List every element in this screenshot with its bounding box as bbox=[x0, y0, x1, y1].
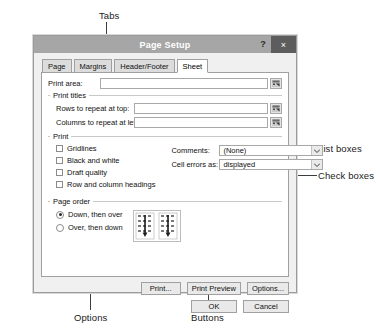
tab-page[interactable]: Page bbox=[42, 59, 72, 73]
print-checkbox-list: Gridlines Black and white Draft quality bbox=[48, 144, 155, 192]
checkbox-box[interactable] bbox=[56, 157, 63, 164]
action-button-row-upper: Print... Print Preview Options... bbox=[41, 282, 289, 295]
tab-sheet[interactable]: Sheet bbox=[177, 59, 209, 73]
cell-errors-row: Cell errors as: displayed bbox=[171, 159, 323, 170]
tab-header-footer[interactable]: Header/Footer bbox=[114, 59, 174, 73]
checkbox-box[interactable] bbox=[56, 145, 63, 152]
checkbox-gridlines[interactable]: Gridlines bbox=[56, 144, 155, 153]
range-select-icon[interactable] bbox=[270, 117, 282, 128]
radio-button[interactable] bbox=[56, 211, 64, 219]
page-setup-dialog: Page Setup ? × Page Margins Header/Foote… bbox=[33, 35, 297, 293]
checkbox-row-and-column-headings[interactable]: Row and column headings bbox=[56, 180, 155, 189]
page-order-radio-list: Down, then over Over, then down bbox=[48, 210, 123, 236]
tab-margins[interactable]: Margins bbox=[74, 59, 113, 73]
columns-repeat-label: Columns to repeat at left: bbox=[48, 118, 134, 127]
checkbox-box[interactable] bbox=[56, 181, 63, 188]
rows-repeat-row: Rows to repeat at top: bbox=[48, 103, 282, 114]
dialog-titlebar[interactable]: Page Setup ? × bbox=[34, 36, 296, 53]
range-select-icon[interactable] bbox=[270, 103, 282, 114]
print-titles-group-label: Print titles bbox=[50, 91, 89, 100]
print-button[interactable]: Print... bbox=[141, 282, 181, 295]
annotation-list-boxes-label: List boxes bbox=[318, 143, 362, 154]
annotation-options-label: Options bbox=[74, 312, 107, 323]
page-order-group: Page order Down, then over Over, then do… bbox=[48, 201, 282, 242]
columns-repeat-input[interactable] bbox=[134, 117, 268, 128]
print-combo-list: Comments: (None) Cell errors as: bbox=[171, 144, 323, 192]
radio-over-then-down[interactable]: Over, then down bbox=[56, 223, 123, 232]
dialog-title: Page Setup bbox=[139, 40, 190, 50]
page-order-group-label: Page order bbox=[50, 197, 93, 206]
cancel-button[interactable]: Cancel bbox=[243, 300, 289, 313]
print-area-label: Print area: bbox=[48, 79, 100, 88]
comments-select[interactable]: (None) bbox=[219, 145, 323, 156]
annotation-tabs-label: Tabs bbox=[99, 10, 119, 21]
columns-repeat-row: Columns to repeat at left: bbox=[48, 117, 282, 128]
annotation-buttons-label: Buttons bbox=[191, 312, 224, 323]
checkbox-black-and-white[interactable]: Black and white bbox=[56, 156, 155, 165]
print-preview-button[interactable]: Print Preview bbox=[187, 282, 241, 295]
radio-down-then-over[interactable]: Down, then over bbox=[56, 210, 123, 219]
checkbox-label: Draft quality bbox=[67, 168, 107, 177]
print-area-row: Print area: bbox=[48, 78, 282, 89]
rows-repeat-label: Rows to repeat at top: bbox=[48, 104, 134, 113]
comments-label: Comments: bbox=[171, 146, 219, 155]
chevron-down-icon[interactable] bbox=[311, 146, 322, 155]
cell-errors-value: displayed bbox=[220, 160, 311, 169]
ok-button[interactable]: OK bbox=[191, 300, 237, 313]
page-order-preview-image bbox=[133, 210, 181, 242]
cell-errors-select[interactable]: displayed bbox=[219, 159, 323, 170]
radio-label: Down, then over bbox=[68, 210, 123, 219]
cell-errors-label: Cell errors as: bbox=[171, 160, 219, 169]
print-group: Print Gridlines Black and white bbox=[48, 136, 282, 192]
help-icon[interactable]: ? bbox=[256, 37, 270, 51]
sheet-tab-panel: Print area: Print titles Rows to repeat … bbox=[41, 72, 289, 277]
comments-row: Comments: (None) bbox=[171, 145, 323, 156]
print-group-label: Print bbox=[50, 132, 71, 141]
checkbox-label: Row and column headings bbox=[67, 180, 155, 189]
radio-label: Over, then down bbox=[68, 223, 123, 232]
dialog-body: Page Margins Header/Footer Sheet Print a… bbox=[34, 53, 296, 292]
checkbox-box[interactable] bbox=[56, 169, 63, 176]
options-button[interactable]: Options... bbox=[247, 282, 289, 295]
checkbox-label: Gridlines bbox=[67, 144, 97, 153]
annotation-check-boxes-label: Check boxes bbox=[318, 170, 374, 181]
action-button-row-lower: OK Cancel bbox=[41, 300, 289, 313]
checkbox-draft-quality[interactable]: Draft quality bbox=[56, 168, 155, 177]
chevron-down-icon[interactable] bbox=[311, 160, 322, 169]
rows-repeat-input[interactable] bbox=[134, 103, 268, 114]
close-icon[interactable]: × bbox=[271, 36, 296, 53]
tab-strip: Page Margins Header/Footer Sheet bbox=[42, 59, 289, 73]
radio-button[interactable] bbox=[56, 224, 64, 232]
range-select-icon[interactable] bbox=[270, 78, 282, 89]
comments-value: (None) bbox=[220, 146, 311, 155]
print-area-input[interactable] bbox=[100, 78, 268, 89]
checkbox-label: Black and white bbox=[67, 156, 120, 165]
print-titles-group: Print titles Rows to repeat at top: Colu… bbox=[48, 95, 282, 128]
